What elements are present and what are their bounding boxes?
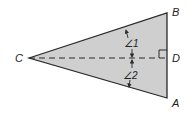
- vertex-c-label: C: [15, 52, 23, 64]
- vertex-b-label: B: [172, 6, 179, 18]
- angle1-label: ∠1: [124, 38, 139, 49]
- angle2-label: ∠2: [123, 70, 138, 81]
- vertex-d-label: D: [172, 52, 180, 64]
- triangle-abc: [29, 13, 167, 98]
- vertex-a-label: A: [171, 97, 179, 109]
- triangle-diagram: ∠1 ∠2 C B D A: [0, 0, 188, 113]
